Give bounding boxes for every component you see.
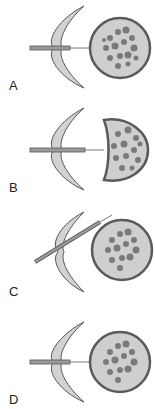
panel-c-illustration bbox=[0, 200, 155, 300]
membrane-shape bbox=[55, 212, 84, 292]
pipette bbox=[30, 360, 70, 364]
panel-label: A bbox=[9, 78, 18, 93]
cell bbox=[92, 220, 152, 280]
panel-label: D bbox=[9, 392, 18, 407]
panel-b: B bbox=[0, 100, 155, 200]
panel-label: B bbox=[9, 180, 18, 195]
cell bbox=[90, 332, 150, 392]
panel-c: C bbox=[0, 200, 155, 300]
panel-b-illustration bbox=[0, 100, 155, 200]
panel-a: A bbox=[0, 0, 155, 100]
pipette-tip bbox=[100, 215, 112, 222]
cell bbox=[90, 18, 150, 78]
panel-a-illustration bbox=[0, 0, 155, 100]
panel-d-illustration bbox=[0, 300, 155, 409]
pipette bbox=[30, 46, 70, 50]
panel-label: C bbox=[9, 284, 18, 299]
pipette bbox=[30, 148, 85, 152]
panel-d: D bbox=[0, 300, 155, 409]
